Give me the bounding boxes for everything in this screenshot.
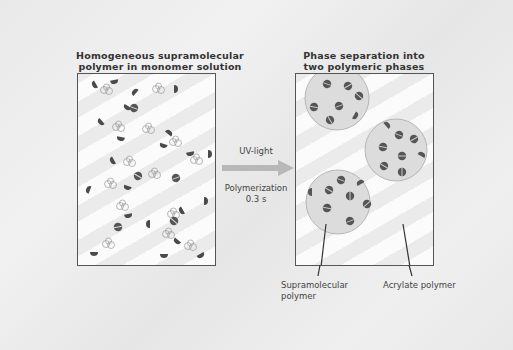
acrylate-pointer: [403, 224, 410, 266]
right-title-line1: Phase separation into: [264, 50, 464, 61]
right-arrow-icon: [222, 160, 294, 176]
phase-separated-panel: [295, 73, 434, 266]
supramolecular-chain-illustration: [78, 74, 216, 266]
left-title-line1: Homogeneous supramolecular: [60, 50, 260, 61]
uv-light-label: UV-light: [218, 146, 294, 157]
phase-droplets-illustration: [296, 74, 434, 266]
polymerization-text: Polymerization: [214, 183, 298, 194]
right-panel-title: Phase separation into two polymeric phas…: [264, 50, 464, 72]
supramolecular-caption-line2: polymer: [281, 291, 348, 302]
droplet-1: [305, 74, 369, 130]
left-panel-title: Homogeneous supramolecular polymer in mo…: [60, 50, 260, 72]
left-title-line2: polymer in monomer solution: [60, 61, 260, 72]
droplet-2: [365, 119, 427, 181]
polymerization-time: 0.3 s: [214, 194, 298, 205]
polymerization-label: Polymerization 0.3 s: [214, 183, 298, 205]
right-title-line2: two polymeric phases: [264, 61, 464, 72]
acrylate-polymer-caption: Acrylate polymer: [383, 280, 456, 291]
process-arrow: [222, 160, 294, 176]
homogeneous-solution-panel: [77, 73, 216, 266]
supramolecular-caption-line1: Supramolecular: [281, 280, 348, 291]
supramolecular-polymer-caption: Supramolecular polymer: [281, 280, 348, 302]
pointer-extensions: [295, 265, 434, 277]
